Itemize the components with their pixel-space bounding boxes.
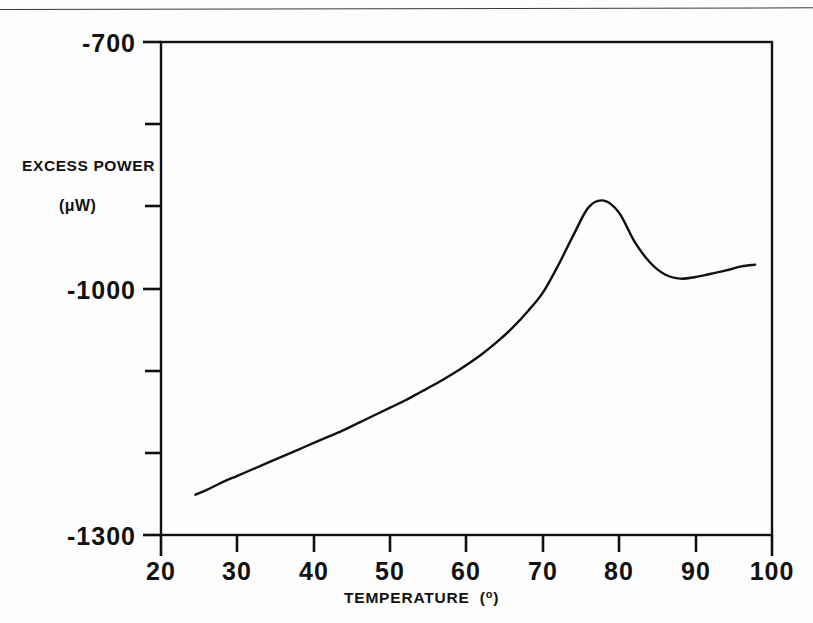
data-series-excess-power [195,200,755,494]
y-axis-units-label: (μW) [59,197,96,215]
figure-excess-power-vs-temperature: -700 -1000 -1300 EXCESS POWER (μW) 20 30… [0,0,813,623]
x-tick-label-30: 30 [207,557,267,586]
y-axis-ticks [143,42,161,535]
x-axis-unit-paren-close: ) [493,589,499,606]
x-tick-label-70: 70 [513,557,573,586]
y-tick-label--700: -700 [36,29,136,58]
x-axis-ticks [161,535,772,556]
x-axis-title: TEMPERATURE (o) [344,588,499,607]
x-tick-label-60: 60 [436,557,496,586]
y-axis-title: EXCESS POWER [22,157,155,175]
x-tick-label-90: 90 [666,557,726,586]
y-tick-label--1300: -1300 [26,522,136,551]
x-tick-label-20: 20 [131,557,191,586]
x-tick-label-50: 50 [360,557,420,586]
x-tick-label-100: 100 [740,557,804,586]
y-tick-label--1000: -1000 [26,276,136,305]
x-tick-label-80: 80 [589,557,649,586]
plot-frame [161,42,772,535]
x-axis-title-main: TEMPERATURE [344,589,470,606]
x-tick-label-40: 40 [284,557,344,586]
